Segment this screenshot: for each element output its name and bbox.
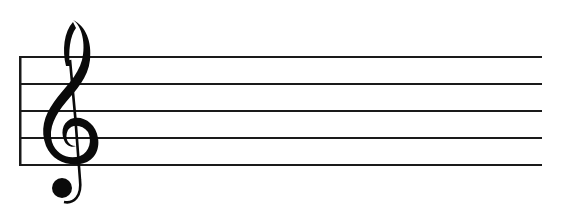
music-staff bbox=[0, 0, 563, 221]
